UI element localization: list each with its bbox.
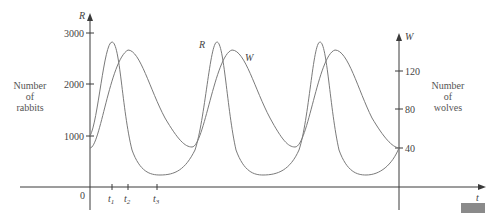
- wolf-curve: [90, 50, 399, 148]
- page-tab-decoration: [461, 203, 485, 213]
- rabbit-curve-label: R: [198, 39, 205, 50]
- t2-label: t2: [124, 193, 131, 206]
- right-title-line2: of: [444, 91, 453, 102]
- w-tick-40: 40: [405, 143, 415, 154]
- r-tick-3000: 3000: [64, 28, 84, 39]
- predator-prey-chart: t R 3000 2000 1000 0 Number of rabbits W…: [0, 0, 489, 216]
- wolf-curve-label: W: [245, 52, 255, 63]
- left-title-line3: rabbits: [16, 102, 43, 113]
- origin-label: 0: [80, 190, 85, 201]
- r-axis-label: R: [78, 10, 85, 21]
- w-tick-120: 120: [405, 66, 420, 77]
- right-title-line3: wolves: [434, 102, 462, 113]
- r-axis-arrow-icon: [87, 13, 93, 21]
- w-tick-80: 80: [405, 104, 415, 115]
- t-axis-arrow-icon: [478, 184, 486, 190]
- r-tick-2000: 2000: [64, 79, 84, 90]
- left-title-line2: of: [26, 91, 35, 102]
- w-axis-label: W: [405, 31, 415, 42]
- r-tick-1000: 1000: [64, 131, 84, 142]
- t-axis-label: t: [476, 192, 479, 203]
- left-title-line1: Number: [14, 80, 47, 91]
- t3-label: t3: [153, 193, 160, 206]
- t1-label: t1: [108, 193, 114, 206]
- right-title-line1: Number: [432, 80, 465, 91]
- w-axis-arrow-icon: [396, 33, 402, 41]
